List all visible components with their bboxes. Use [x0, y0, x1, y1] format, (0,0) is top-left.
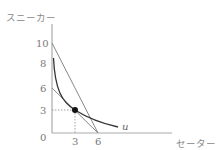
y-axis-label: スニーカー: [6, 12, 56, 23]
indifference-curve: [54, 58, 119, 127]
y-tick-10: 10: [36, 38, 49, 49]
y-tick-6: 6: [40, 83, 46, 94]
origin-label: 0: [40, 132, 46, 143]
y-tick-3: 3: [40, 105, 46, 116]
y-tick-8: 8: [40, 58, 46, 69]
curve-label-u: u: [122, 121, 128, 132]
x-axis-label: セーター: [176, 138, 216, 149]
optimal-point: [72, 107, 78, 113]
x-tick-3: 3: [72, 136, 78, 147]
indifference-curve-diagram: スニーカー セーター 10 8 6 3 0 3 6 u: [0, 0, 223, 150]
x-tick-6: 6: [95, 136, 101, 147]
